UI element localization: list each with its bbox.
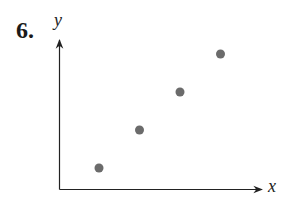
- data-point: [176, 88, 185, 97]
- scatter-plot: [0, 0, 306, 210]
- data-points: [95, 50, 226, 173]
- data-point: [216, 50, 225, 59]
- data-point: [95, 164, 104, 173]
- data-point: [135, 126, 144, 135]
